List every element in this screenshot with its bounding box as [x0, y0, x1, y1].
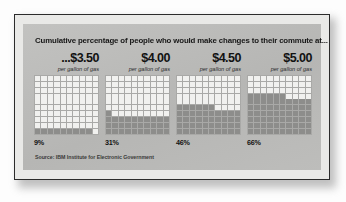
waffle-cell — [267, 129, 273, 134]
waffle-cell — [138, 76, 144, 81]
waffle-cell — [132, 117, 138, 122]
waffle-cell — [248, 123, 254, 128]
waffle-cell — [125, 99, 131, 104]
waffle-cell — [261, 123, 267, 128]
waffle-cell — [215, 94, 221, 99]
waffle-cell — [41, 88, 47, 93]
waffle-cell — [119, 82, 125, 87]
waffle-cell — [267, 99, 273, 104]
waffle-cell — [248, 82, 254, 87]
waffle-cell — [235, 76, 241, 81]
waffle-cell — [151, 99, 157, 104]
waffle-cell — [125, 94, 131, 99]
waffle-cell — [267, 76, 273, 81]
waffle-cell — [203, 82, 209, 87]
waffle-cell — [35, 111, 41, 116]
waffle-cell — [177, 76, 183, 81]
waffle-cell — [280, 105, 286, 110]
waffle-cell — [248, 117, 254, 122]
waffle-grid — [176, 75, 241, 135]
waffle-cell — [286, 105, 292, 110]
waffle-cell — [299, 123, 305, 128]
waffle-cell — [80, 99, 86, 104]
waffle-cell — [177, 88, 183, 93]
waffle-cell — [157, 99, 163, 104]
waffle-cell — [35, 129, 41, 134]
waffle-cell — [254, 82, 260, 87]
waffle-cell — [203, 111, 209, 116]
waffle-cell — [235, 88, 241, 93]
waffle-cell — [112, 94, 118, 99]
waffle-cell — [119, 129, 125, 134]
waffle-cell — [286, 82, 292, 87]
waffle-cell — [228, 94, 234, 99]
waffle-cell — [203, 94, 209, 99]
waffle-cell — [215, 99, 221, 104]
waffle-cell — [222, 105, 228, 110]
waffle-cell — [306, 88, 312, 93]
waffle-cell — [106, 117, 112, 122]
waffle-cell — [190, 105, 196, 110]
waffle-cell — [299, 111, 305, 116]
waffle-cell — [293, 88, 299, 93]
waffle-cell — [151, 111, 157, 116]
waffle-cell — [299, 76, 305, 81]
waffle-cell — [209, 88, 215, 93]
waffle-cell — [144, 82, 150, 87]
waffle-cell — [41, 99, 47, 104]
waffle-cell — [248, 111, 254, 116]
waffle-cell — [80, 82, 86, 87]
waffle-cell — [274, 111, 280, 116]
waffle-cell — [157, 82, 163, 87]
waffle-cell — [106, 129, 112, 134]
waffle-cell — [293, 94, 299, 99]
waffle-cell — [209, 105, 215, 110]
waffle-cell — [299, 99, 305, 104]
waffle-cell — [177, 117, 183, 122]
waffle-cell — [215, 111, 221, 116]
price-heading: $4.50 — [176, 52, 241, 65]
waffle-cell — [306, 105, 312, 110]
waffle-cell — [196, 105, 202, 110]
waffle-cell — [299, 117, 305, 122]
waffle-cell — [54, 129, 60, 134]
waffle-cell — [112, 129, 118, 134]
waffle-cell — [61, 94, 67, 99]
waffle-cell — [61, 82, 67, 87]
waffle-cell — [196, 82, 202, 87]
waffle-cell — [183, 123, 189, 128]
waffle-cell — [151, 129, 157, 134]
waffle-cell — [86, 94, 92, 99]
waffle-cell — [164, 76, 170, 81]
waffle-cell — [293, 123, 299, 128]
price-unit-label: per gallon of gas — [34, 66, 99, 72]
waffle-cell — [286, 76, 292, 81]
waffle-cell — [261, 94, 267, 99]
waffle-cell — [48, 111, 54, 116]
waffle-cell — [138, 94, 144, 99]
waffle-column: ...$3.50per gallon of gas9% — [34, 52, 99, 147]
figure-page: Cumulative percentage of people who woul… — [0, 0, 346, 202]
waffle-cell — [119, 88, 125, 93]
waffle-cell — [35, 117, 41, 122]
waffle-cell — [35, 82, 41, 87]
waffle-cell — [73, 129, 79, 134]
waffle-cell — [190, 76, 196, 81]
waffle-cell — [254, 76, 260, 81]
waffle-cell — [157, 111, 163, 116]
waffle-cell — [261, 105, 267, 110]
waffle-cell — [41, 94, 47, 99]
waffle-cell — [215, 105, 221, 110]
waffle-cell — [222, 94, 228, 99]
waffle-cell — [132, 105, 138, 110]
waffle-cell — [190, 94, 196, 99]
waffle-cell — [138, 99, 144, 104]
waffle-cell — [157, 129, 163, 134]
waffle-cell — [286, 111, 292, 116]
waffle-grid — [34, 75, 99, 135]
waffle-cell — [286, 129, 292, 134]
waffle-cell — [48, 76, 54, 81]
waffle-cell — [177, 123, 183, 128]
waffle-cell — [41, 111, 47, 116]
chart-panel: Cumulative percentage of people who woul… — [23, 24, 321, 170]
